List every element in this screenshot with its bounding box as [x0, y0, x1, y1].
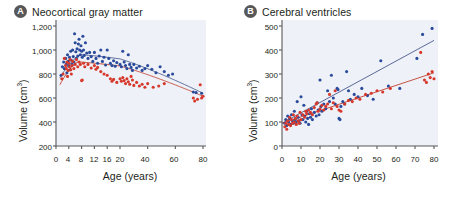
- figure-container: A Neocortical gray matter Volume (cm3) 2…: [0, 0, 461, 197]
- panel-b-plot: [230, 0, 461, 197]
- panel-cerebral-ventricles: B Cerebral ventricles Volume (cm3) 0 100…: [230, 0, 461, 197]
- panel-a-plot: [0, 0, 230, 197]
- panel-neocortical-gray-matter: A Neocortical gray matter Volume (cm3) 2…: [0, 0, 230, 197]
